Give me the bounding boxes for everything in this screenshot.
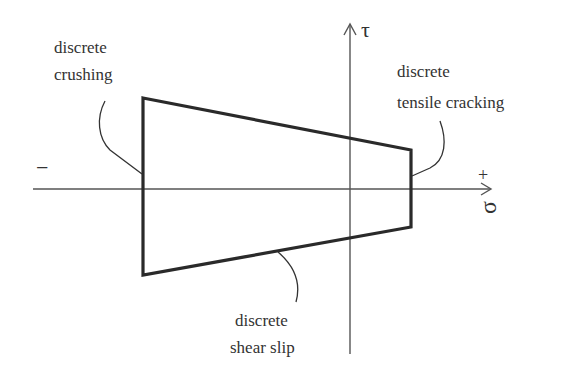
crushing-leader-line [99,101,142,174]
negative-sign: − [36,155,48,180]
failure-envelope [143,98,411,275]
crushing-label-line1: discrete [54,38,107,57]
shear-leader-line [278,252,298,302]
shear-label-line1: discrete [235,311,288,330]
tau-label: τ [361,17,370,42]
sigma-label: σ [475,201,501,214]
tensile-label-line1: discrete [397,62,450,81]
failure-surface-diagram: − + σ τ discrete crushing discrete tensi… [0,0,567,376]
tensile-leader-line [412,121,444,176]
shear-label-line2: shear slip [230,338,295,357]
tensile-label-line2: tensile cracking [397,93,505,112]
positive-sign: + [478,165,488,185]
crushing-label-line2: crushing [54,65,113,84]
